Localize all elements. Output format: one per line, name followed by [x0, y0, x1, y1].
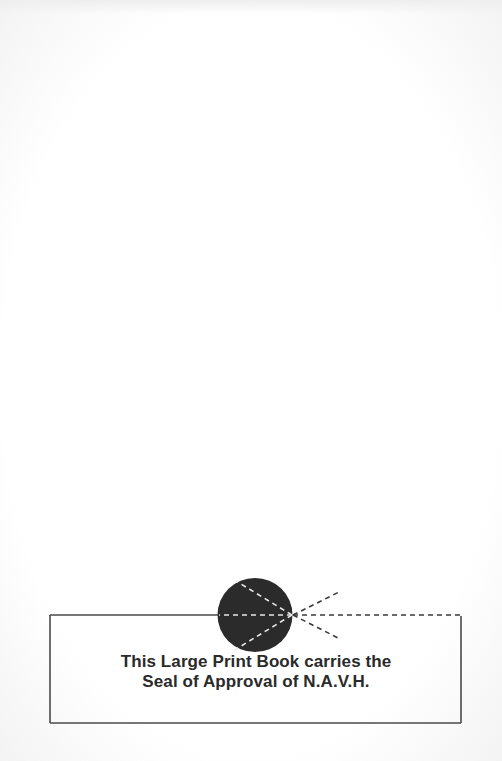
seal-rays-outer-icon: [293, 591, 461, 638]
navh-seal-graphic: [0, 0, 502, 761]
seal-notice-line-1: This Large Print Book carries the: [50, 652, 462, 672]
seal-notice-line-2: Seal of Approval of N.A.V.H.: [50, 672, 462, 692]
seal-notice: This Large Print Book carries the Seal o…: [50, 652, 462, 692]
book-page: This Large Print Book carries the Seal o…: [0, 0, 502, 761]
